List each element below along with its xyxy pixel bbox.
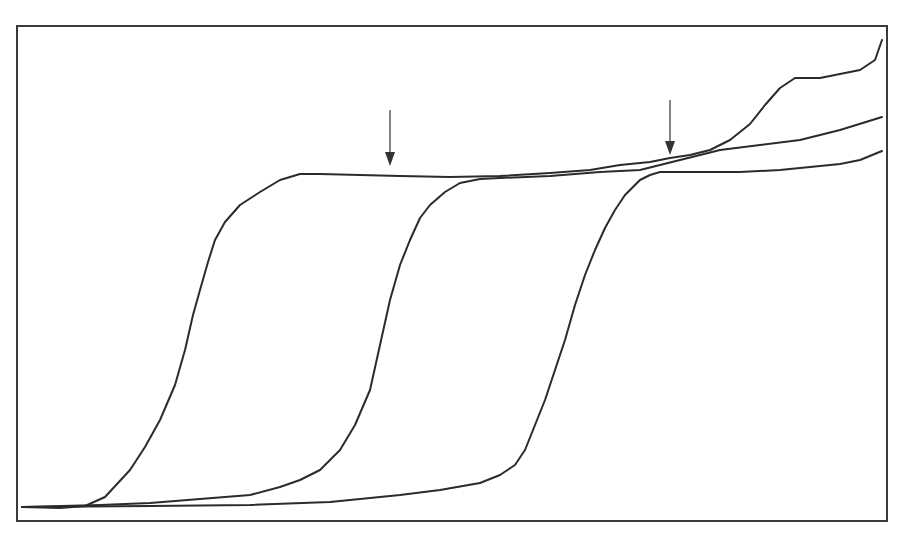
arrow-1-down-arrow-icon — [385, 110, 395, 166]
chart-figure — [0, 0, 900, 541]
curve-2-line — [22, 117, 882, 507]
plot-frame — [17, 26, 887, 521]
annotation-arrows — [385, 100, 675, 166]
curve-3-line — [22, 151, 882, 507]
arrow-2-down-arrow-icon — [665, 100, 675, 155]
sigmoid-curves-plot — [0, 0, 900, 541]
curve-1-line — [22, 40, 882, 508]
curves-group — [22, 40, 882, 508]
